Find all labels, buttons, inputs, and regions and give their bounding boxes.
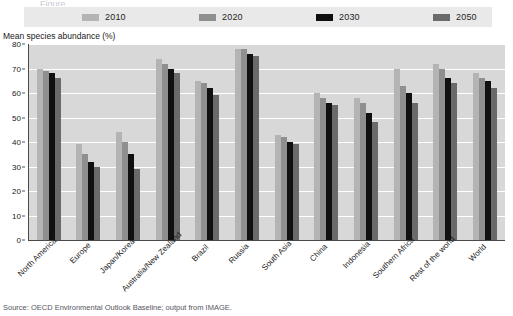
legend-swatch-icon-2020 [199,14,216,21]
bar-group [354,44,378,240]
y-tick-label-20: 20 [12,187,21,196]
legend-swatch-icon-2030 [316,14,333,21]
bar-group [394,44,418,240]
y-tick-label-50: 50 [12,113,21,122]
plot-area [28,44,505,241]
x-tick-label: Russia [227,241,251,265]
chart-legend: 2010202020302050 [24,7,492,27]
bar[interactable] [372,122,378,240]
bar-group [314,44,338,240]
bar[interactable] [332,105,338,240]
x-tick-label: Indonesia [341,239,372,270]
bar-group [195,44,219,240]
legend-item-2050[interactable]: 2050 [375,12,492,22]
bar[interactable] [491,88,497,240]
y-tick-label-80: 80 [12,40,21,49]
x-tick-label: China [308,242,329,263]
x-tick-label: Europe [68,241,93,266]
y-tick-label-40: 40 [12,138,21,147]
bar-group [473,44,497,240]
plot-area-wrapper: 01020304050607080 [0,44,513,240]
bar-group [235,44,259,240]
source-note: Source: OECD Environmental Outlook Basel… [3,303,232,312]
bar[interactable] [134,169,140,240]
x-tick-label: Brazil [190,242,211,263]
bar-group [37,44,61,240]
legend-item-2020[interactable]: 2020 [141,12,258,22]
bar[interactable] [412,103,418,240]
legend-swatch-icon-2050 [433,14,450,21]
x-tick-label: World [467,242,488,263]
legend-label: 2050 [456,12,477,22]
y-tick-mark-30 [22,166,25,167]
bar[interactable] [55,78,61,240]
y-axis-labels: 01020304050607080 [0,44,25,240]
bar[interactable] [253,56,259,240]
y-tick-mark-50 [22,117,25,118]
y-tick-label-10: 10 [12,211,21,220]
y-tick-label-60: 60 [12,89,21,98]
x-axis-labels: North AmericaEuropeJapan/KoreaAustralia/… [0,240,513,300]
y-tick-label-70: 70 [12,64,21,73]
bar[interactable] [174,73,180,240]
y-tick-mark-80 [22,44,25,45]
bar-group [275,44,299,240]
x-tick-label: Japan/Korea [98,237,136,275]
bar-groups [29,44,505,240]
legend-label: 2020 [222,12,243,22]
bar-group [76,44,100,240]
x-tick-label: Southern Africa [371,235,416,280]
bar-group [433,44,457,240]
legend-label: 2030 [339,12,360,22]
legend-item-2010[interactable]: 2010 [24,12,141,22]
y-tick-mark-10 [22,215,25,216]
y-tick-mark-70 [22,68,25,69]
cropped-title-text: Figure [40,0,513,6]
y-tick-mark-40 [22,142,25,143]
x-tick-label: North America [16,236,58,278]
legend-label: 2010 [105,12,126,22]
y-tick-mark-20 [22,191,25,192]
cropped-title-strip: Figure [0,0,513,6]
bar-group [156,44,180,240]
bar[interactable] [451,83,457,240]
legend-item-2030[interactable]: 2030 [258,12,375,22]
x-tick-label: South Asia [260,239,293,272]
y-tick-label-30: 30 [12,162,21,171]
y-tick-mark-60 [22,93,25,94]
legend-swatch-icon-2010 [82,14,99,21]
bar[interactable] [94,167,100,241]
bar[interactable] [293,144,299,240]
bar[interactable] [213,95,219,240]
bar-group [116,44,140,240]
